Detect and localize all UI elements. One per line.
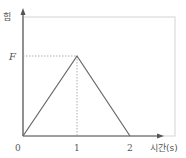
x-tick-1: 1 (74, 143, 80, 153)
force-time-graph: 힘 F 0 1 2 시간(s) (0, 0, 186, 158)
x-axis-label: 시간(s) (150, 143, 178, 153)
y-axis-label: 힘 (3, 12, 11, 22)
graph-frame (23, 17, 175, 136)
x-tick-2: 2 (127, 143, 133, 153)
y-axis-arrow-icon (21, 8, 26, 15)
y-tick-f: F (8, 51, 17, 62)
force-curve (23, 56, 130, 136)
x-axis-arrow-icon (157, 134, 164, 139)
x-tick-0: 0 (15, 143, 21, 153)
